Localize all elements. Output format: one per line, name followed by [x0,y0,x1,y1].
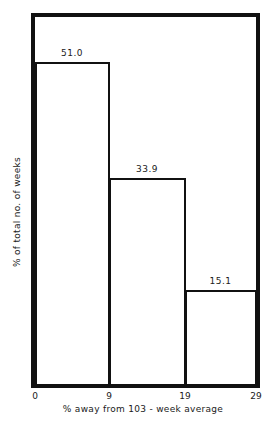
x-axis-label: % away from 103 - week average [0,404,274,414]
x-tick-label: 29 [241,391,271,401]
histogram-bar [109,178,186,384]
bar-value-label: 33.9 [117,164,177,174]
bar-value-label: 51.0 [42,48,102,58]
x-tick-label: 9 [94,391,124,401]
x-tick-label: 19 [170,391,200,401]
histogram-bar [35,62,110,384]
histogram-bar [185,290,257,384]
bar-value-label: 15.1 [191,276,251,286]
x-tick-label: 0 [20,391,50,401]
y-axis-label: % of total no. of weeks [12,157,22,267]
